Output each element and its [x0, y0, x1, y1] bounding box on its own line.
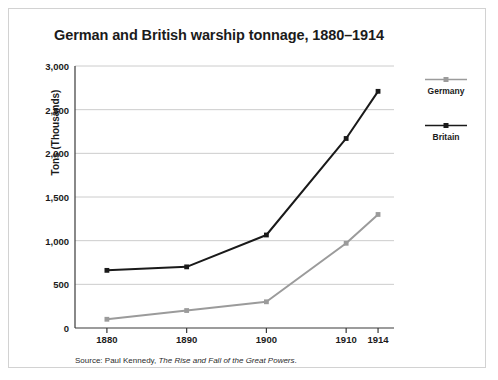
y-axis-tick-label: 3,000	[25, 61, 69, 72]
legend-entry-germany: Germany	[413, 75, 479, 97]
x-axis-tick-label: 1890	[176, 334, 197, 345]
legend-marker	[444, 77, 449, 82]
data-point-germany-1910	[344, 241, 349, 246]
data-point-germany-1914	[376, 212, 381, 217]
y-axis-tick-label: 2,000	[25, 148, 69, 159]
source-suffix: .	[295, 356, 297, 365]
series-line-britain	[107, 91, 378, 270]
y-axis-tick-labels: 05001,0001,5002,0002,5003,000	[19, 66, 69, 328]
legend-swatch-britain	[423, 121, 469, 130]
data-point-germany-1900	[264, 299, 269, 304]
plot-area	[75, 66, 394, 328]
legend-label-britain: Britain	[413, 132, 479, 143]
x-axis-tick-label: 1910	[336, 334, 357, 345]
data-point-germany-1880	[105, 317, 110, 322]
x-axis-tick-label: 1914	[367, 334, 388, 345]
x-axis-tick-label: 1880	[96, 334, 117, 345]
data-point-germany-1890	[184, 308, 189, 313]
x-axis-tick-labels: 18801890190019101914	[75, 334, 394, 350]
y-axis-tick-label: 1,000	[25, 235, 69, 246]
data-point-britain-1880	[105, 268, 110, 273]
series-line-germany	[107, 214, 378, 319]
legend-marker	[444, 123, 449, 128]
y-axis-tick-label: 500	[25, 279, 69, 290]
data-point-britain-1910	[344, 136, 349, 141]
legend-swatch-germany	[423, 75, 469, 84]
y-axis-tick-label: 2,500	[25, 104, 69, 115]
legend-label-germany: Germany	[413, 86, 479, 97]
x-axis-tick-label: 1900	[256, 334, 277, 345]
y-axis-tick-label: 1,500	[25, 192, 69, 203]
source-book-title: The Rise and Fall of the Great Powers	[158, 356, 294, 365]
plot-svg	[75, 66, 394, 328]
y-axis-tick-label: 0	[25, 323, 69, 334]
data-point-britain-1900	[264, 233, 269, 238]
source-note: Source: Paul Kennedy, The Rise and Fall …	[75, 356, 297, 365]
chart-legend: Germany Britain	[413, 75, 479, 167]
chart-figure: German and British warship tonnage, 1880…	[8, 8, 486, 368]
legend-entry-britain: Britain	[413, 121, 479, 143]
source-prefix: Source: Paul Kennedy,	[75, 356, 158, 365]
data-point-britain-1914	[376, 89, 381, 94]
data-point-britain-1890	[184, 264, 189, 269]
chart-title: German and British warship tonnage, 1880…	[9, 27, 429, 43]
